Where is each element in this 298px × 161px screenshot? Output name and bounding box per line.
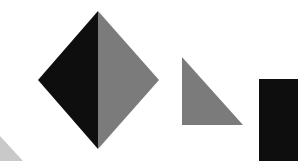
diamond-right-half — [98, 11, 159, 149]
light-corner-shape — [0, 136, 23, 161]
black-rectangle — [259, 79, 298, 161]
right-triangle — [182, 57, 243, 125]
shapes-canvas — [0, 0, 298, 161]
diamond-left-half — [38, 11, 98, 149]
